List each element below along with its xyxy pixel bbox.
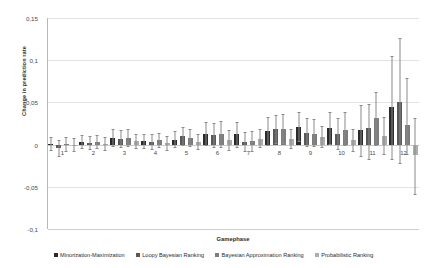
y-axis-tick-label: -0,1 xyxy=(0,226,38,233)
error-bar xyxy=(89,136,90,149)
bar-item xyxy=(366,18,371,229)
bar-group: 7 xyxy=(233,18,264,229)
error-bar xyxy=(337,118,338,149)
error-bar-cap xyxy=(344,112,347,113)
error-bar xyxy=(244,132,245,151)
error-bar-cap xyxy=(181,145,184,146)
bar-item xyxy=(48,18,53,229)
x-axis-tick-label: 3 xyxy=(109,150,140,156)
bar-group: 1 xyxy=(47,18,78,229)
bar-item xyxy=(242,18,247,229)
bar-item xyxy=(149,18,154,229)
error-bar-cap xyxy=(204,145,207,146)
legend-label: Bayesian Approximation Ranking xyxy=(222,252,304,258)
error-bar-cap xyxy=(406,78,409,79)
bar-group: 5 xyxy=(171,18,202,229)
error-bar-cap xyxy=(259,129,262,130)
error-bar-cap xyxy=(204,122,207,123)
error-bar-cap xyxy=(158,133,161,134)
error-bar xyxy=(407,78,408,154)
legend-swatch xyxy=(54,253,58,257)
error-bar xyxy=(391,56,392,159)
bar-item xyxy=(304,18,309,229)
x-axis-tick-label: 8 xyxy=(264,150,295,156)
error-bar xyxy=(415,118,416,193)
error-bar xyxy=(128,129,129,147)
error-bar-cap xyxy=(228,130,231,131)
error-bar-cap xyxy=(150,134,153,135)
error-bar-cap xyxy=(297,141,300,142)
error-bar-cap xyxy=(88,136,91,137)
chart-legend: Minorization-MaximizationLoopy Bayesian … xyxy=(0,252,427,258)
bar-group: 6 xyxy=(202,18,233,229)
y-axis-tick-label: -0,05 xyxy=(0,183,38,190)
x-axis-tick-label: 9 xyxy=(295,150,326,156)
bar-item xyxy=(234,18,239,229)
error-bar xyxy=(198,134,199,148)
error-bar-cap xyxy=(212,147,215,148)
bar-item xyxy=(265,18,270,229)
error-bar xyxy=(314,119,315,146)
x-axis-tick-label: 5 xyxy=(171,150,202,156)
error-bar-cap xyxy=(119,130,122,131)
error-bar-cap xyxy=(367,104,370,105)
error-bar-cap xyxy=(305,146,308,147)
error-bar-cap xyxy=(181,127,184,128)
bar-item xyxy=(374,18,379,229)
error-bar-cap xyxy=(220,147,223,148)
error-bar xyxy=(267,117,268,145)
bar-item xyxy=(141,18,146,229)
bar-group: 10 xyxy=(326,18,357,229)
error-bar-cap xyxy=(127,129,130,130)
bar-item xyxy=(250,18,255,229)
error-bar xyxy=(174,131,175,147)
error-bar-cap xyxy=(197,134,200,135)
bar-item xyxy=(343,18,348,229)
bar-item xyxy=(180,18,185,229)
error-bar-cap xyxy=(243,132,246,133)
bar-item xyxy=(211,18,216,229)
legend-item: Probabilistic Ranking xyxy=(315,252,374,258)
bar-item xyxy=(258,18,263,229)
x-axis-tick-label: 4 xyxy=(140,150,171,156)
bar-item xyxy=(389,18,394,229)
bar-item xyxy=(172,18,177,229)
legend-swatch xyxy=(215,253,219,257)
error-bar-cap xyxy=(398,163,401,164)
error-bar xyxy=(205,122,206,146)
bar-item xyxy=(413,18,418,229)
error-bar-cap xyxy=(328,144,331,145)
error-bar-cap xyxy=(321,126,324,127)
error-bar-cap xyxy=(142,134,145,135)
bar-item xyxy=(110,18,115,229)
error-bar-cap xyxy=(282,114,285,115)
error-bar-cap xyxy=(414,194,417,195)
bar-item xyxy=(126,18,131,229)
bar-item xyxy=(72,18,77,229)
error-bar xyxy=(66,137,67,151)
bar-group: 9 xyxy=(295,18,326,229)
error-bar-cap xyxy=(49,137,52,138)
x-axis-tick-label: 6 xyxy=(202,150,233,156)
error-bar xyxy=(221,121,222,147)
bar-item xyxy=(196,18,201,229)
bar-item xyxy=(397,18,402,229)
x-axis-tick-label: 7 xyxy=(233,150,264,156)
error-bar xyxy=(105,137,106,150)
bar-item xyxy=(118,18,123,229)
error-bar-cap xyxy=(111,146,114,147)
error-bar-cap xyxy=(57,156,60,157)
bar-group: 12 xyxy=(388,18,419,229)
error-bar-cap xyxy=(305,118,308,119)
x-axis-tick-label: 2 xyxy=(78,150,109,156)
bar-item xyxy=(134,18,139,229)
bar-item xyxy=(95,18,100,229)
error-bar-cap xyxy=(352,129,355,130)
bar-item xyxy=(320,18,325,229)
x-axis-tick-label: 1 xyxy=(47,150,78,156)
error-bar-cap xyxy=(65,137,68,138)
error-bar xyxy=(120,130,121,147)
error-bar-cap xyxy=(266,145,269,146)
legend-label: Loopy Bayesian Ranking xyxy=(142,252,204,258)
error-bar-cap xyxy=(235,147,238,148)
